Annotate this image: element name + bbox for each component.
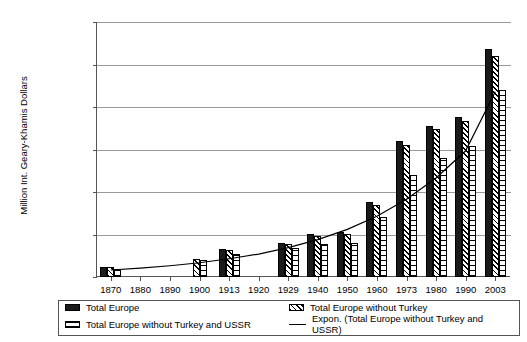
legend-item[interactable]: Expon. (Total Europe without Turkey and … xyxy=(289,313,513,335)
bar-total-europe-without-turkey[interactable] xyxy=(492,56,499,277)
y-axis-tick xyxy=(93,277,97,278)
legend-item[interactable]: Total Europe xyxy=(65,302,289,313)
bar-total-europe-without-turkey-and-ussr[interactable] xyxy=(321,244,328,277)
diagonal-hatch-icon xyxy=(289,304,304,311)
y-axis-title: Million Int. Geary-Khamis Dollars xyxy=(18,31,29,261)
bar-group: 1920 xyxy=(244,22,274,277)
x-axis-tick xyxy=(318,277,319,281)
bar-total-europe-without-turkey-and-ussr[interactable] xyxy=(233,254,240,277)
bar-total-europe-without-turkey-and-ussr[interactable] xyxy=(114,269,121,278)
bar-total-europe[interactable] xyxy=(219,249,226,277)
bar-group: 1973 xyxy=(392,22,422,277)
x-axis-tick xyxy=(259,277,260,281)
bar-total-europe-without-turkey-and-ussr[interactable] xyxy=(410,175,417,277)
x-axis-label: 1973 xyxy=(392,284,422,295)
bar-total-europe-without-turkey[interactable] xyxy=(226,250,233,277)
bar-total-europe-without-turkey[interactable] xyxy=(403,145,410,277)
x-axis-label: 1980 xyxy=(421,284,451,295)
bar-total-europe-without-turkey-and-ussr[interactable] xyxy=(469,146,476,277)
legend-label: Total Europe xyxy=(86,302,139,313)
line-icon xyxy=(289,324,306,325)
bar-group: 2003 xyxy=(481,22,511,277)
x-axis-label: 1990 xyxy=(451,284,481,295)
bar-total-europe[interactable] xyxy=(337,232,344,277)
legend-label: Total Europe without Turkey and USSR xyxy=(86,319,251,330)
bar-group: 1913 xyxy=(214,22,244,277)
legend-label: Expon. (Total Europe without Turkey and … xyxy=(312,313,513,335)
bar-group: 1890 xyxy=(155,22,185,277)
bar-groups: 1870188018901900191319201929194019501960… xyxy=(96,22,510,277)
x-axis-tick xyxy=(111,277,112,281)
bar-total-europe[interactable] xyxy=(366,202,373,277)
bar-total-europe[interactable] xyxy=(307,234,314,277)
bar-total-europe[interactable] xyxy=(426,126,433,277)
bar-group: 1980 xyxy=(421,22,451,277)
x-axis-label: 1900 xyxy=(185,284,215,295)
bar-total-europe-without-turkey-and-ussr[interactable] xyxy=(200,260,207,277)
x-axis-tick xyxy=(436,277,437,281)
x-axis-tick xyxy=(377,277,378,281)
x-axis-tick xyxy=(347,277,348,281)
bar-total-europe-without-turkey-and-ussr[interactable] xyxy=(380,217,387,277)
bar-total-europe-without-turkey[interactable] xyxy=(462,121,469,277)
x-axis-label: 1920 xyxy=(244,284,274,295)
bar-total-europe-without-turkey[interactable] xyxy=(107,267,114,277)
legend-item[interactable]: Total Europe without Turkey and USSR xyxy=(65,319,289,330)
solid-black-icon xyxy=(65,304,80,311)
x-axis-label: 1940 xyxy=(303,284,333,295)
x-axis-tick xyxy=(288,277,289,281)
legend-item[interactable]: Total Europe without Turkey xyxy=(289,302,513,313)
bar-group: 1940 xyxy=(303,22,333,277)
bar-total-europe[interactable] xyxy=(278,243,285,277)
bar-total-europe-without-turkey-and-ussr[interactable] xyxy=(440,158,447,277)
x-axis-tick xyxy=(407,277,408,281)
bar-total-europe-without-turkey[interactable] xyxy=(344,234,351,277)
bar-total-europe-without-turkey-and-ussr[interactable] xyxy=(351,243,358,277)
bar-total-europe[interactable] xyxy=(485,49,492,277)
bar-total-europe-without-turkey[interactable] xyxy=(373,205,380,277)
bar-total-europe[interactable] xyxy=(100,267,107,277)
x-axis-label: 1913 xyxy=(214,284,244,295)
chart-legend: Total EuropeTotal Europe without TurkeyT… xyxy=(58,300,520,336)
bar-group: 1929 xyxy=(273,22,303,277)
bar-total-europe-without-turkey-and-ussr[interactable] xyxy=(499,90,506,277)
bar-total-europe-without-turkey-and-ussr[interactable] xyxy=(292,248,299,277)
x-axis-tick xyxy=(200,277,201,281)
x-axis-tick xyxy=(140,277,141,281)
legend-label: Total Europe without Turkey xyxy=(310,302,427,313)
bar-group: 1960 xyxy=(362,22,392,277)
x-axis-label: 1890 xyxy=(155,284,185,295)
bar-group: 1950 xyxy=(333,22,363,277)
bar-total-europe-without-turkey[interactable] xyxy=(193,259,200,277)
bar-group: 1880 xyxy=(126,22,156,277)
x-axis-label: 1870 xyxy=(96,284,126,295)
x-axis-tick xyxy=(229,277,230,281)
x-axis-tick xyxy=(466,277,467,281)
grid-hatch-icon xyxy=(65,321,80,328)
bar-total-europe-without-turkey[interactable] xyxy=(433,129,440,277)
bar-total-europe[interactable] xyxy=(455,117,462,277)
x-axis-label: 1929 xyxy=(273,284,303,295)
bar-total-europe[interactable] xyxy=(396,141,403,277)
bar-total-europe-without-turkey[interactable] xyxy=(285,244,292,277)
x-axis-label: 1880 xyxy=(126,284,156,295)
bar-group: 1990 xyxy=(451,22,481,277)
x-axis-tick xyxy=(170,277,171,281)
bar-total-europe-without-turkey[interactable] xyxy=(314,236,321,277)
bar-group: 1900 xyxy=(185,22,215,277)
x-axis-label: 2003 xyxy=(481,284,511,295)
x-axis-label: 1960 xyxy=(362,284,392,295)
x-axis-tick xyxy=(495,277,496,281)
chart-root: Million Int. Geary-Khamis Dollars 12,000… xyxy=(0,0,527,342)
x-axis-label: 1950 xyxy=(333,284,363,295)
bar-group: 1870 xyxy=(96,22,126,277)
